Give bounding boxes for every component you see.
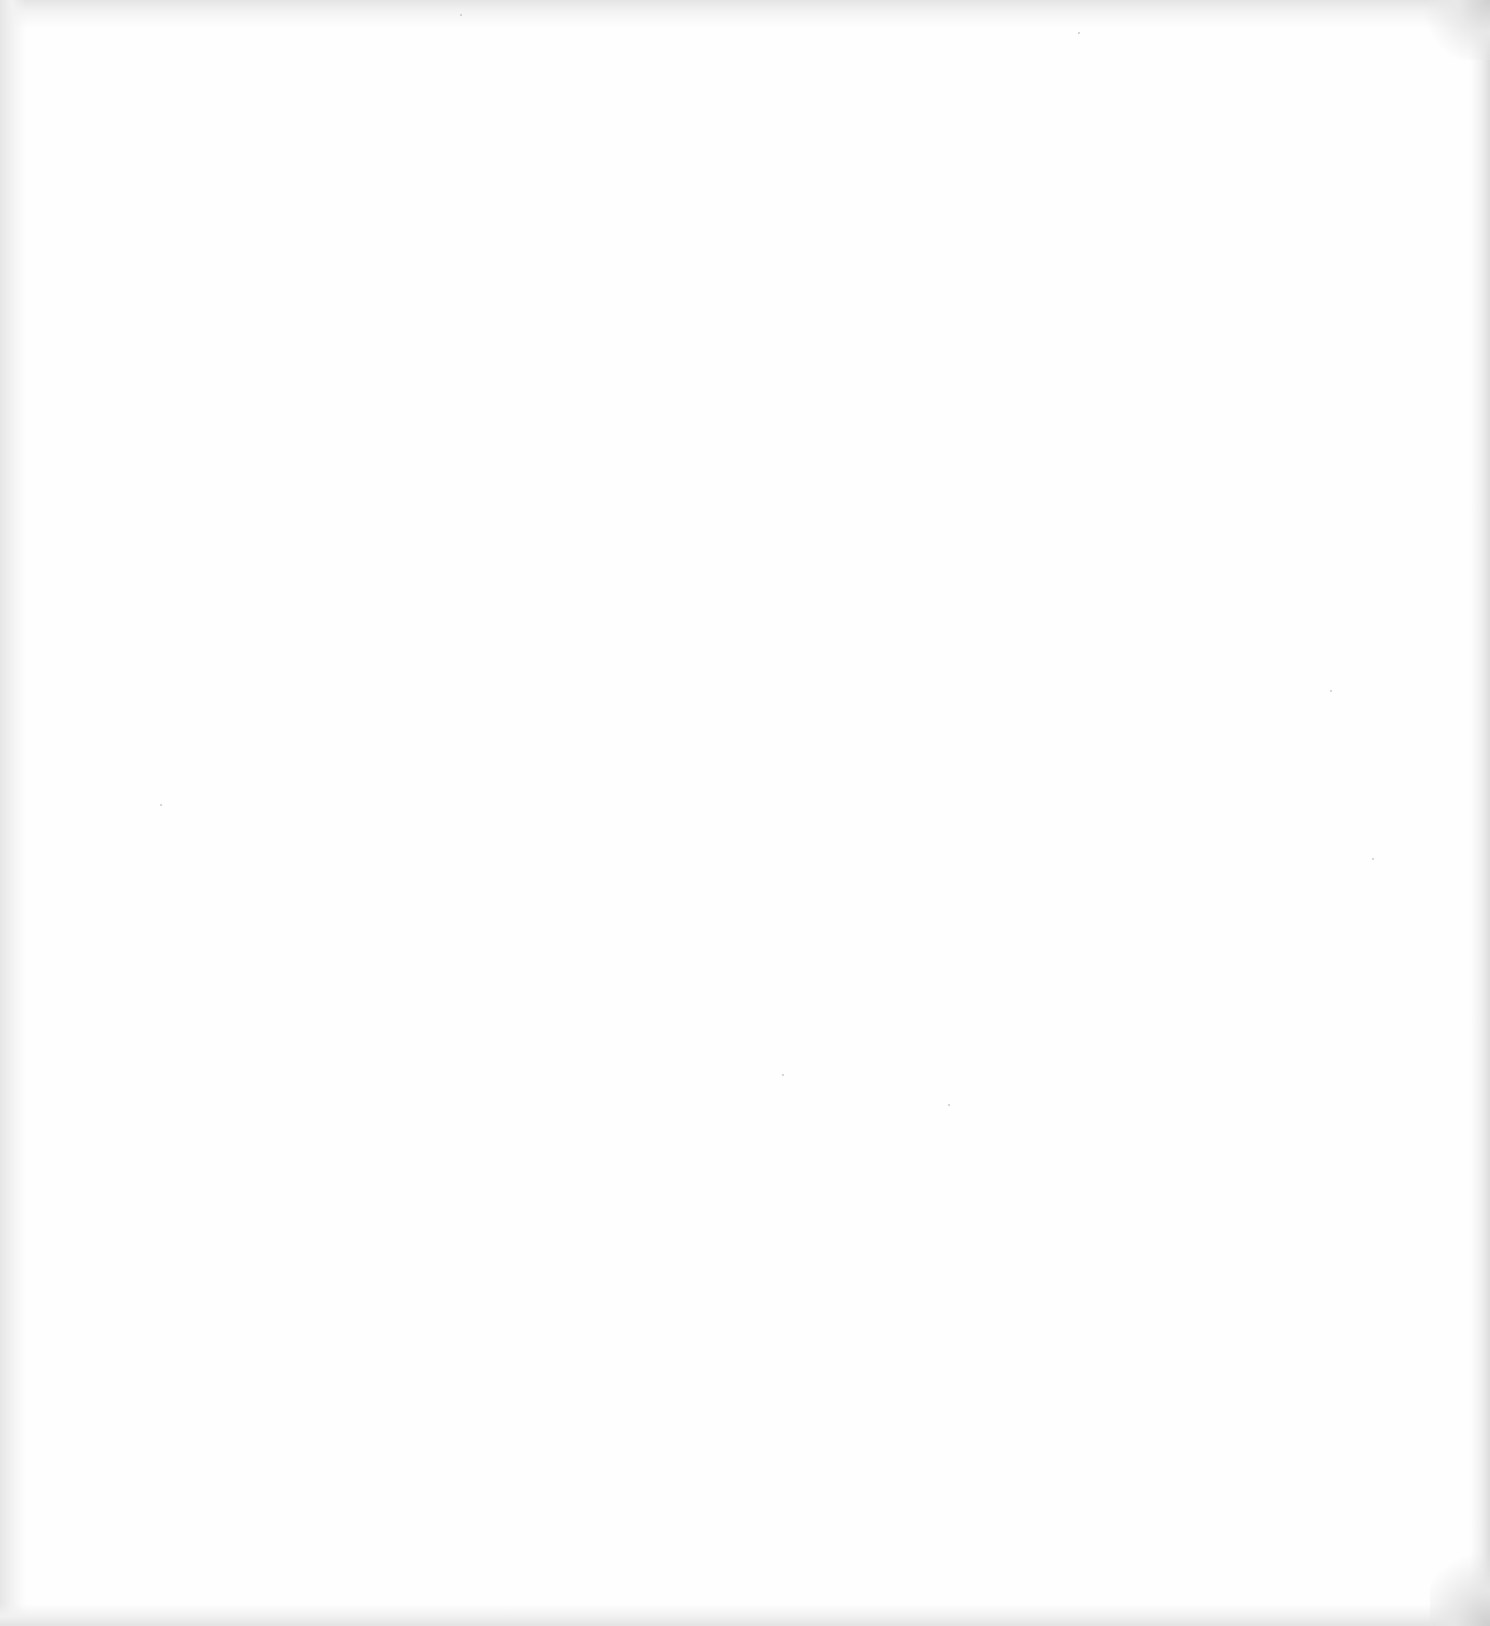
scan-corner-smudge-top-right <box>1420 0 1490 60</box>
scan-edge-shadow-right <box>1470 0 1490 1626</box>
scan-speck <box>1078 32 1080 34</box>
scan-corner-smudge-bottom-right <box>1430 1546 1490 1626</box>
blank-scanned-page <box>0 0 1490 1626</box>
scan-speck <box>460 14 462 16</box>
scan-edge-shadow-left <box>0 0 26 1626</box>
scan-edge-shadow-top <box>0 0 1490 28</box>
page-body-text <box>60 60 1430 1566</box>
scan-edge-shadow-bottom <box>0 1604 1490 1626</box>
